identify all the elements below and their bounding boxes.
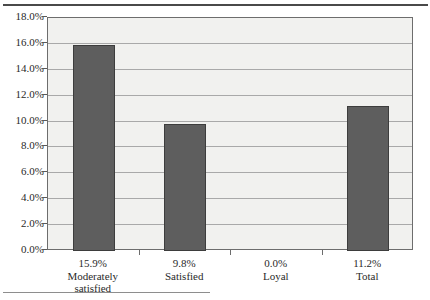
y-axis-tick-label: 0.0%: [0, 244, 44, 255]
y-axis-tick-label: 4.0%: [0, 192, 44, 203]
plot-inner: [48, 18, 412, 249]
x-axis-category-label: 11.2%Total: [322, 257, 414, 282]
x-axis-label-line: 9.8%: [139, 257, 231, 270]
y-axis-labels: 18.0%16.0%14.0%12.0%10.0%8.0%6.0%4.0%2.0…: [0, 17, 44, 250]
y-axis-tick-mark: [42, 120, 47, 121]
x-axis-label-line: 0.0%: [230, 257, 322, 270]
x-axis-tick-mark: [139, 250, 140, 255]
y-axis-tick-label: 2.0%: [0, 218, 44, 229]
x-axis-tick-mark: [322, 250, 323, 255]
y-axis-tick-label: 10.0%: [0, 115, 44, 126]
bar: [164, 124, 206, 251]
y-axis-tick-label: 8.0%: [0, 140, 44, 151]
x-axis-category-label: 9.8%Satisfied: [139, 257, 231, 282]
y-axis-tick-mark: [42, 68, 47, 69]
x-axis-category-label: 0.0%Loyal: [230, 257, 322, 282]
y-axis-tick-mark: [42, 197, 47, 198]
y-axis-tick-mark: [42, 16, 47, 17]
x-axis-label-line: Loyal: [230, 270, 322, 283]
x-axis-label-line: Moderately: [47, 270, 139, 283]
top-divider-rule: [3, 4, 428, 6]
x-axis-label-line: Total: [322, 270, 414, 283]
x-axis-label-line: Satisfied: [139, 270, 231, 283]
y-axis-tick-label: 14.0%: [0, 63, 44, 74]
gridline: [48, 43, 412, 44]
y-axis-tick-mark: [42, 94, 47, 95]
y-axis-tick-mark: [42, 249, 47, 250]
plot-area: [47, 17, 413, 250]
y-axis-tick-label: 16.0%: [0, 37, 44, 48]
x-axis-category-label: 15.9%Moderatelysatisfied: [47, 257, 139, 295]
x-axis-label-line: 11.2%: [322, 257, 414, 270]
y-axis-tick-mark: [42, 223, 47, 224]
y-axis-tick-label: 6.0%: [0, 166, 44, 177]
y-axis-tick-mark: [42, 171, 47, 172]
y-axis-tick-mark: [42, 145, 47, 146]
bar: [73, 45, 115, 251]
bar: [347, 106, 389, 251]
chart-figure: 18.0%16.0%14.0%12.0%10.0%8.0%6.0%4.0%2.0…: [0, 0, 430, 300]
y-axis-tick-label: 18.0%: [0, 11, 44, 22]
x-axis-label-line: satisfied: [47, 282, 139, 295]
x-axis-label-line: 15.9%: [47, 257, 139, 270]
y-axis-tick-mark: [42, 42, 47, 43]
x-axis-tick-mark: [230, 250, 231, 255]
y-axis-tick-label: 12.0%: [0, 89, 44, 100]
